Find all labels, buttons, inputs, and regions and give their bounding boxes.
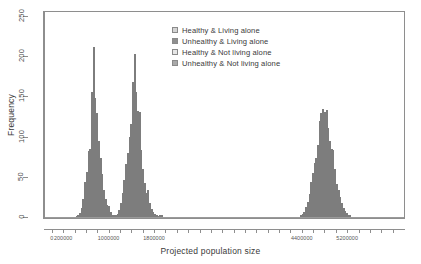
- zero-baseline: [45, 217, 404, 218]
- legend-item: Unhealthy & Living alone: [172, 36, 280, 46]
- x-tick-mark: [109, 229, 110, 233]
- x-tick-mark: [75, 229, 76, 233]
- x-tick-mark: [302, 229, 303, 233]
- legend-swatch-icon: [172, 38, 178, 44]
- x-tick-mark: [279, 229, 280, 233]
- x-tick-mark: [256, 229, 257, 233]
- legend-item-label: Healthy & Not living alone: [182, 48, 272, 57]
- x-tick-label: 5200000: [336, 235, 358, 241]
- x-tick-label: 1800000: [143, 235, 165, 241]
- x-tick-mark: [165, 229, 166, 233]
- x-tick-mark: [313, 229, 314, 233]
- x-tick-mark: [324, 229, 325, 233]
- x-tick-mark: [211, 229, 212, 233]
- legend-item-label: Unhealthy & Not living alone: [182, 59, 280, 68]
- x-tick-mark: [63, 229, 64, 233]
- x-axis: Projected population size 02000001000000…: [0, 219, 421, 264]
- x-tick-mark: [370, 229, 371, 233]
- x-tick-mark: [393, 229, 394, 233]
- x-tick-mark: [52, 229, 53, 233]
- histogram-figure: 050100150200250 Frequency Projected popu…: [0, 0, 421, 264]
- x-tick-mark: [97, 229, 98, 233]
- x-tick-mark: [222, 229, 223, 233]
- x-tick-mark: [177, 229, 178, 233]
- x-tick-mark: [143, 229, 144, 233]
- x-tick-mark: [347, 229, 348, 233]
- legend-item: Healthy & Not living alone: [172, 47, 280, 57]
- legend-swatch-icon: [172, 60, 178, 66]
- legend-swatch-icon: [172, 49, 178, 55]
- x-tick-mark: [268, 229, 269, 233]
- x-tick-mark: [290, 229, 291, 233]
- x-tick-mark: [131, 229, 132, 233]
- x-tick-mark: [245, 229, 246, 233]
- x-tick-mark: [359, 229, 360, 233]
- legend: Healthy & Living aloneUnhealthy & Living…: [172, 25, 280, 68]
- x-tick-mark: [154, 229, 155, 233]
- legend-item: Healthy & Living alone: [172, 25, 280, 35]
- legend-item: Unhealthy & Not living alone: [172, 58, 280, 68]
- x-tick-label: 4400000: [291, 235, 313, 241]
- legend-item-label: Unhealthy & Living alone: [182, 37, 268, 46]
- y-axis-title-label: Frequency: [6, 94, 16, 136]
- x-tick-mark: [120, 229, 121, 233]
- x-tick-label: 200000: [54, 235, 73, 241]
- x-tick-mark: [381, 229, 382, 233]
- x-tick-mark: [86, 229, 87, 233]
- y-axis-title: Frequency: [4, 0, 18, 230]
- x-tick-mark: [200, 229, 201, 233]
- x-tick-mark: [188, 229, 189, 233]
- x-tick-mark: [234, 229, 235, 233]
- legend-swatch-icon: [172, 27, 178, 33]
- x-tick-mark: [336, 229, 337, 233]
- x-tick-label: 1000000: [98, 235, 120, 241]
- legend-item-label: Healthy & Living alone: [182, 26, 260, 35]
- x-axis-title: Projected population size: [0, 246, 421, 256]
